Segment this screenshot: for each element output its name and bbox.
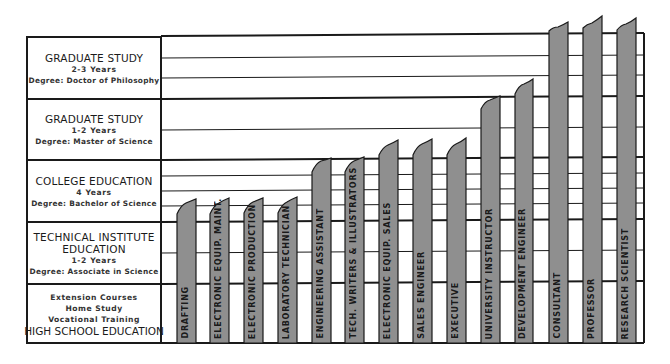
level-duration: 2-3 Years bbox=[71, 64, 116, 75]
level-title: COLLEGE EDUCATION bbox=[35, 175, 152, 187]
career-label-consultant: CONSULTANT bbox=[553, 272, 562, 339]
career-label-engineering-assistant: ENGINEERING ASSISTANT bbox=[316, 208, 325, 339]
level-duration: 1-2 Years bbox=[71, 255, 116, 266]
career-label-executive: EXECUTIVE bbox=[451, 282, 460, 339]
career-label-drafting: DRAFTING bbox=[181, 286, 190, 339]
career-label-development-engineer: DEVELOPMENT ENGINEER bbox=[518, 208, 527, 339]
level-extension-courses: Extension Courses bbox=[50, 292, 137, 303]
career-label-electronic-equip-maint: ELECTRONIC EQUIP. MAINT. bbox=[214, 198, 223, 339]
level-degree: Degree: Associate in Science bbox=[30, 266, 159, 277]
level-title: HIGH SCHOOL EDUCATION bbox=[24, 325, 164, 337]
level-title-line2: EDUCATION bbox=[62, 243, 126, 255]
career-label-university-instructor: UNIVERSITY INSTRUCTOR bbox=[485, 208, 494, 339]
level-technical-institute: TECHNICAL INSTITUTE EDUCATION 1-2 Years … bbox=[27, 223, 161, 284]
career-label-tech-writers: TECH. WRITERS & ILLUSTRATORS bbox=[349, 167, 358, 339]
level-vocational-training: Vocational Training bbox=[48, 314, 140, 325]
career-label-electronic-production: ELECTRONIC PRODUCTION bbox=[248, 204, 257, 339]
career-label-laboratory-technician: LABORATORY TECHNICIAN bbox=[282, 205, 291, 339]
level-duration: 4 Years bbox=[76, 187, 111, 198]
level-home-study: Home Study bbox=[65, 303, 122, 314]
level-high-school: Extension Courses Home Study Vocational … bbox=[27, 285, 161, 343]
level-title: GRADUATE STUDY bbox=[45, 113, 143, 125]
level-degree: Degree: Master of Science bbox=[35, 136, 152, 147]
level-title: GRADUATE STUDY bbox=[45, 52, 143, 64]
career-label-research-scientist: RESEARCH SCIENTIST bbox=[621, 228, 630, 339]
level-college: COLLEGE EDUCATION 4 Years Degree: Bachel… bbox=[27, 161, 161, 222]
career-label-professor: PROFESSOR bbox=[587, 278, 596, 339]
career-label-sales-engineer: SALES ENGINEER bbox=[417, 251, 426, 339]
level-degree: Degree: Bachelor of Science bbox=[31, 198, 157, 209]
level-title-line1: TECHNICAL INSTITUTE bbox=[33, 231, 154, 243]
education-career-diagram: GRADUATE STUDY 2-3 Years Degree: Doctor … bbox=[0, 0, 670, 364]
career-label-electronic-equip-sales: ELECTRONIC EQUIP. SALES bbox=[383, 202, 392, 339]
level-graduate-ms: GRADUATE STUDY 1-2 Years Degree: Master … bbox=[27, 100, 161, 160]
level-graduate-phd: GRADUATE STUDY 2-3 Years Degree: Doctor … bbox=[27, 38, 161, 99]
level-duration: 1-2 Years bbox=[71, 125, 116, 136]
level-degree: Degree: Doctor of Philosophy bbox=[29, 75, 160, 86]
